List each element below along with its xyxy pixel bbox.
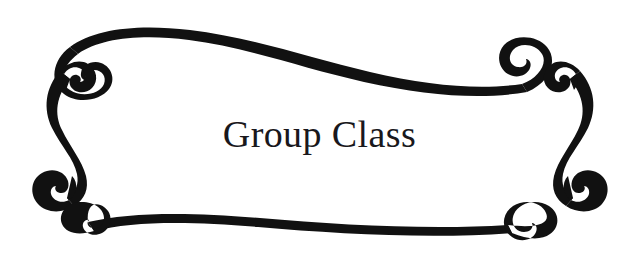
top-right-spiral-icon [499, 37, 552, 92]
right-upper-spiral-icon [544, 62, 580, 93]
ornamental-title-card: Group Class [0, 0, 640, 262]
left-upper-spiral-icon [60, 62, 96, 93]
bottom-left-spiral-icon [61, 202, 111, 235]
right-lower-spiral-icon [564, 170, 608, 211]
top-sweep-stroke [70, 27, 527, 96]
scroll-frame-ornament [0, 0, 640, 262]
bottom-sweep-stroke [88, 214, 512, 236]
bottom-right-spiral-icon [504, 202, 558, 240]
